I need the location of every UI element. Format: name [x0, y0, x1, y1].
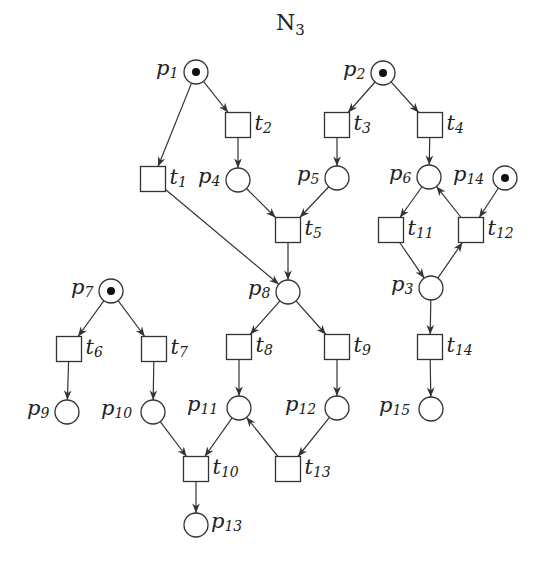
- p8-label-name: p: [248, 276, 261, 300]
- place-p7: [99, 279, 123, 303]
- p15-label-name: p: [379, 393, 392, 417]
- p12-label: p12: [285, 394, 316, 415]
- t8-label-sub: 8: [264, 342, 273, 358]
- p10-label: p10: [101, 398, 132, 419]
- transition-t13: [276, 457, 301, 482]
- place-p10: [141, 400, 165, 424]
- t12-label-name: t: [488, 216, 496, 240]
- p6-label: p6: [389, 163, 411, 184]
- t12-label-sub: 12: [496, 225, 514, 241]
- token-icon: [107, 287, 115, 295]
- p6-label-name: p: [389, 161, 402, 185]
- transition-t14: [418, 335, 443, 360]
- t11-label-name: t: [408, 216, 416, 240]
- p9-label: p9: [27, 398, 49, 419]
- transition-t6: [57, 337, 82, 362]
- p15-label: p15: [379, 395, 410, 416]
- arc-p3-t12: [438, 243, 463, 279]
- t5-label: t5: [305, 218, 322, 239]
- arc-p10-t10: [160, 422, 186, 457]
- arc-p7-t6: [78, 301, 104, 337]
- t7-label-name: t: [171, 335, 179, 359]
- net-title: N3: [276, 10, 305, 39]
- place-circle: [226, 168, 250, 192]
- arc-p8-t9: [296, 301, 326, 335]
- p2-label-name: p: [343, 57, 356, 81]
- t11-label: t11: [408, 218, 434, 239]
- p10-label-name: p: [101, 396, 114, 420]
- t14-label-name: t: [447, 333, 455, 357]
- arc-t14-p15: [430, 360, 431, 398]
- p5-label-sub: 5: [310, 171, 319, 187]
- transition-t4: [418, 113, 443, 138]
- t3-label-name: t: [354, 111, 362, 135]
- p4-label-name: p: [198, 164, 211, 188]
- p12-label-sub: 12: [298, 401, 316, 417]
- arc-p1-t2: [203, 81, 228, 112]
- place-circle: [276, 280, 300, 304]
- arc-t6-p9: [67, 362, 68, 401]
- place-circle: [325, 396, 349, 420]
- transition-t2: [226, 113, 251, 138]
- arc-p3-t14: [430, 300, 431, 335]
- transition-t1: [141, 167, 166, 192]
- p4-label-sub: 4: [211, 173, 220, 189]
- p1-label-name: p: [156, 56, 169, 80]
- t4-label-sub: 4: [455, 120, 464, 136]
- arc-p1-t1: [158, 83, 192, 166]
- transition-t7: [142, 337, 167, 362]
- arc-p11-t10: [205, 418, 232, 457]
- t9-label: t9: [354, 335, 371, 356]
- p9-label-name: p: [27, 396, 40, 420]
- t5-label-name: t: [305, 216, 313, 240]
- arc-p2-t4: [391, 82, 419, 113]
- t10-label: t10: [213, 457, 239, 478]
- token-icon: [192, 68, 200, 76]
- t5-label-sub: 5: [313, 225, 322, 241]
- transition-t12: [459, 218, 484, 243]
- transition-t11: [379, 218, 404, 243]
- place-circle: [141, 400, 165, 424]
- place-p11: [227, 396, 251, 420]
- t6-label-name: t: [86, 335, 94, 359]
- t7-label: t7: [171, 337, 188, 358]
- t13-label-name: t: [305, 455, 313, 479]
- place-p14: [493, 166, 517, 190]
- p14-label-name: p: [453, 162, 466, 186]
- t7-label-sub: 7: [179, 344, 188, 360]
- t2-label-name: t: [255, 111, 263, 135]
- token-icon: [501, 174, 509, 182]
- place-circle: [55, 400, 79, 424]
- t10-label-sub: 10: [221, 464, 239, 480]
- place-p8: [276, 280, 300, 304]
- place-p4: [226, 168, 250, 192]
- t4-label-name: t: [447, 111, 455, 135]
- token-icon: [379, 69, 387, 77]
- place-circle: [417, 165, 441, 189]
- p13-label: p13: [211, 511, 242, 532]
- place-circle: [227, 396, 251, 420]
- p5-label-name: p: [297, 162, 310, 186]
- p7-label-name: p: [71, 275, 84, 299]
- p8-label: p8: [248, 278, 270, 299]
- transition-t5: [276, 218, 301, 243]
- place-circle: [325, 166, 349, 190]
- p12-label-name: p: [285, 392, 298, 416]
- p13-label-name: p: [211, 509, 224, 533]
- arc-p5-t5: [300, 187, 329, 218]
- t3-label: t3: [354, 113, 371, 134]
- p5-label: p5: [297, 164, 319, 185]
- place-circle: [419, 397, 443, 421]
- t1-label-sub: 1: [178, 174, 187, 190]
- p4-label: p4: [198, 166, 220, 187]
- place-p13: [184, 513, 208, 537]
- t8-label: t8: [256, 335, 273, 356]
- t6-label: t6: [86, 337, 103, 358]
- t8-label-name: t: [256, 333, 264, 357]
- p7-label: p7: [71, 277, 93, 298]
- p3-label: p3: [391, 274, 413, 295]
- arc-t7-p10: [153, 362, 154, 401]
- t13-label: t13: [305, 457, 331, 478]
- p8-label-sub: 8: [261, 285, 270, 301]
- arc-p7-t7: [118, 301, 145, 337]
